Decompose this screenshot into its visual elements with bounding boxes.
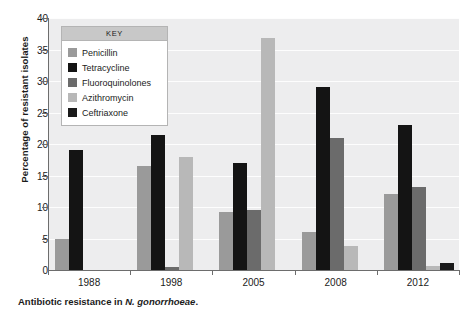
x-tick-label-2008: 2008 [306,277,366,288]
bar-azithromycin-2008 [344,246,358,270]
bar-group-2012 [378,18,460,270]
bar-group-2008 [296,18,378,270]
bar-penicillin-1988 [55,239,69,271]
caption-suffix: . [195,296,198,307]
legend-swatch-fluoroquinolones [68,78,77,87]
legend-item-azithromycin: Azithromycin [68,90,167,105]
bar-fluoroquinolones-2005 [247,210,261,270]
antibiotic-resistance-figure: Percentage of resistant isolates 0510152… [0,0,465,322]
bar-fluoroquinolones-2008 [330,138,344,270]
legend-swatch-penicillin [68,48,77,57]
x-tick-label-1998: 1998 [141,277,201,288]
x-tick-label-2012: 2012 [388,277,448,288]
y-tick-label: 0 [24,265,48,276]
x-tick-mark [459,270,460,275]
legend-label-tetracycline: Tetracycline [82,63,130,73]
legend-label-fluoroquinolones: Fluoroquinolones [82,78,151,88]
x-axis-line [48,270,459,271]
x-tick-mark [377,270,378,275]
legend-item-ceftriaxone: Ceftriaxone [68,105,167,120]
x-tick-label-1988: 1988 [59,277,119,288]
bar-penicillin-2005 [219,212,233,270]
legend-swatch-azithromycin [68,93,77,102]
bar-penicillin-2008 [302,232,316,270]
legend-swatch-ceftriaxone [68,108,77,117]
x-tick-mark [130,270,131,275]
figure-caption: Antibiotic resistance in N. gonorrhoeae. [18,296,198,307]
legend-title: KEY [62,27,167,41]
bar-tetracycline-2008 [316,87,330,270]
legend-item-tetracycline: Tetracycline [68,60,167,75]
legend-label-penicillin: Penicillin [82,48,118,58]
legend-item-fluoroquinolones: Fluoroquinolones [68,75,167,90]
bar-tetracycline-1988 [69,150,83,270]
bar-tetracycline-2012 [398,125,412,270]
y-axis-ticks: 0510152025303540 [0,0,48,322]
bar-fluoroquinolones-2012 [412,187,426,270]
bar-azithromycin-2005 [261,38,275,270]
caption-prefix: Antibiotic resistance in [18,296,125,307]
legend-items: PenicillinTetracyclineFluoroquinolonesAz… [62,41,167,125]
legend-label-azithromycin: Azithromycin [82,93,134,103]
bar-tetracycline-2005 [233,163,247,270]
bar-tetracycline-1998 [151,135,165,270]
bar-group-2005 [213,18,295,270]
x-tick-label-2005: 2005 [224,277,284,288]
x-tick-mark [295,270,296,275]
bar-penicillin-1998 [137,166,151,270]
x-tick-mark [212,270,213,275]
caption-species: N. gonorrhoeae [125,296,195,307]
legend: KEY PenicillinTetracyclineFluoroquinolon… [61,26,168,126]
bar-azithromycin-1998 [179,157,193,270]
x-tick-mark [48,270,49,275]
bar-ceftriaxone-2012 [440,263,454,270]
legend-item-penicillin: Penicillin [68,45,167,60]
bar-penicillin-2012 [384,194,398,270]
legend-swatch-tetracycline [68,63,77,72]
legend-label-ceftriaxone: Ceftriaxone [82,108,128,118]
